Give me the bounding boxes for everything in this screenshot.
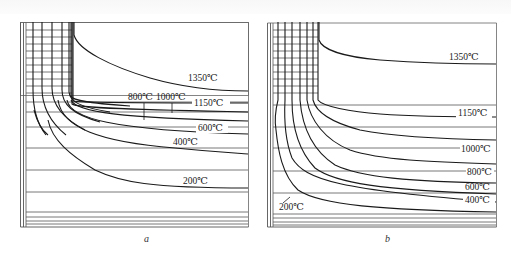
isotherm-label-b-600: 600℃ [465,182,490,192]
isotherm-label-b-1150: 1150℃ [458,108,488,118]
isotherm-label-b-400: 400℃ [465,195,490,205]
isotherm-figure: 1350℃ 1150℃ 1000℃ 800℃ 600℃ 400℃ 200℃ 13… [0,0,511,261]
isotherm-label-b-1000: 1000℃ [461,144,491,154]
isotherm-diagram: 1350℃ 1150℃ 1000℃ 800℃ 600℃ 400℃ 200℃ 13… [0,0,511,261]
panel-b-labels: 1350℃ 1150℃ 1000℃ 800℃ 600℃ 400℃ 200℃ [279,52,496,212]
isotherm-label-b-200: 200℃ [279,202,304,212]
panel-a-caption: a [144,233,149,244]
panel-a-top-frame [21,23,249,96]
isotherm-label-b-800: 800℃ [467,167,492,177]
isotherm-label-a-400: 400℃ [173,137,198,147]
panel-b-caption: b [385,233,390,244]
isotherm-label-a-200: 200℃ [183,176,208,186]
isotherm-label-b-1350: 1350℃ [449,52,479,62]
isotherm-label-a-800: 800℃ [128,92,153,102]
isotherm-label-a-1150: 1150℃ [194,98,224,108]
isotherm-label-a-1000: 1000℃ [156,92,186,102]
isotherm-label-a-600: 600℃ [198,123,223,133]
isotherm-label-a-1350: 1350℃ [188,73,218,83]
